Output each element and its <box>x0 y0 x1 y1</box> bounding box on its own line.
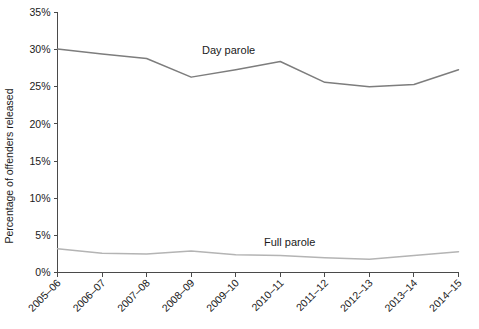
chart-container: Percentage of offenders released 0%5%10%… <box>0 0 479 329</box>
y-tick-label: 5% <box>35 229 50 241</box>
series-line-day-parole <box>58 49 459 87</box>
x-tick-label: 2012–13 <box>337 276 375 314</box>
y-tick-label: 10% <box>29 192 50 204</box>
line-chart: Percentage of offenders released 0%5%10%… <box>0 0 479 329</box>
x-tick-label: 2013–14 <box>382 276 420 314</box>
x-tick-label: 2006–07 <box>70 276 108 314</box>
series-annotations: Day paroleFull parole <box>202 44 315 248</box>
series-lines <box>58 49 459 259</box>
y-tick-label: 15% <box>29 155 50 167</box>
series-annotation-full-parole: Full parole <box>264 236 315 248</box>
y-tick-label: 20% <box>29 118 50 130</box>
series-line-full-parole <box>58 249 459 259</box>
x-tick-label: 2009–10 <box>204 276 242 314</box>
y-tick-label: 25% <box>29 80 50 92</box>
x-tick-label: 2007–08 <box>115 276 153 314</box>
x-tick-label: 2011–12 <box>293 276 330 313</box>
x-tick-label: 2014–15 <box>427 276 465 314</box>
y-tick-label: 30% <box>29 43 50 55</box>
y-tick-label: 35% <box>29 6 50 18</box>
y-axis-title: Percentage of offenders released <box>3 88 15 243</box>
y-axis: 0%5%10%15%20%25%30%35% <box>29 6 57 278</box>
series-annotation-day-parole: Day parole <box>202 44 255 56</box>
y-axis-title-text: Percentage of offenders released <box>3 88 15 243</box>
x-axis: 2005–062006–072007–082008–092009–102010–… <box>26 273 465 314</box>
x-tick-label: 2010–11 <box>249 276 286 313</box>
x-tick-label: 2005–06 <box>26 276 64 314</box>
x-tick-label: 2008–09 <box>159 276 197 314</box>
y-tick-label: 0% <box>35 266 50 278</box>
